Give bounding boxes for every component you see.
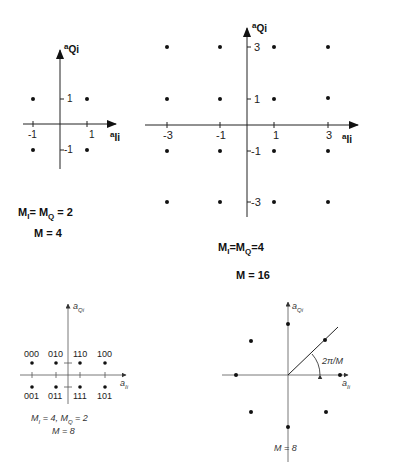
qam16-xtick-1: 1 [273, 129, 279, 141]
qam4-x-axis-label: aIi [110, 130, 120, 143]
qam8-x-axis-label: aIi [120, 378, 128, 390]
angle-arc [312, 354, 320, 375]
qam16-diagram [145, 28, 358, 217]
qam16-ytick-1: 1 [254, 93, 260, 105]
constellation-point [31, 97, 35, 101]
qam4-ytick-1: 1 [67, 93, 73, 104]
constellation-point [31, 148, 35, 152]
qam16-ytick-m3: -3 [251, 196, 261, 208]
bit-label-111: 111 [73, 391, 87, 401]
qam16-xtick-3: 3 [326, 129, 332, 141]
psk8-y-axis-label: aQi [292, 301, 303, 313]
qam4-ytick-m1: -1 [64, 144, 73, 155]
qam16-x-axis-label: aIi [342, 132, 352, 145]
angle-label: 2π/M [322, 356, 343, 366]
bit-label-001: 001 [24, 391, 39, 401]
qam4-y-axis-label: aQi [64, 42, 79, 55]
psk8-diagram [222, 302, 348, 462]
qam16-caption-line2: M = 16 [236, 269, 270, 281]
qam8-caption-line1: MI = 4, MQ = 2 [31, 413, 88, 425]
psk8-caption: M = 8 [274, 443, 297, 453]
qam16-xtick-m1: -1 [216, 129, 226, 141]
psk8-x-axis-label: aIi [342, 378, 350, 390]
qam8-caption-line2: M = 8 [52, 426, 75, 436]
qam16-caption-line1: MI=MQ=4 [218, 241, 264, 256]
constellation-point [85, 97, 89, 101]
qam16-ytick-m1: -1 [251, 145, 261, 157]
bit-label-110: 110 [73, 349, 87, 359]
qam4-caption-line1: MI= MQ = 2 [18, 206, 73, 221]
bit-label-010: 010 [48, 349, 63, 359]
bit-label-000: 000 [24, 349, 39, 359]
bit-label-011: 011 [48, 391, 62, 401]
bit-label-100: 100 [97, 349, 112, 359]
qam4-xtick-1: 1 [89, 129, 95, 140]
qam16-ytick-3: 3 [254, 41, 260, 53]
qam16-y-axis-label: aQi [252, 21, 267, 34]
constellation-point [85, 148, 89, 152]
bit-label-101: 101 [97, 391, 112, 401]
qam8-y-axis-label: aQi [73, 301, 84, 313]
qam4-xtick-m1: -1 [28, 129, 37, 140]
qam16-xtick-m3: -3 [163, 129, 173, 141]
angle-ray [288, 327, 338, 375]
qam4-caption-line2: M = 4 [34, 227, 62, 239]
